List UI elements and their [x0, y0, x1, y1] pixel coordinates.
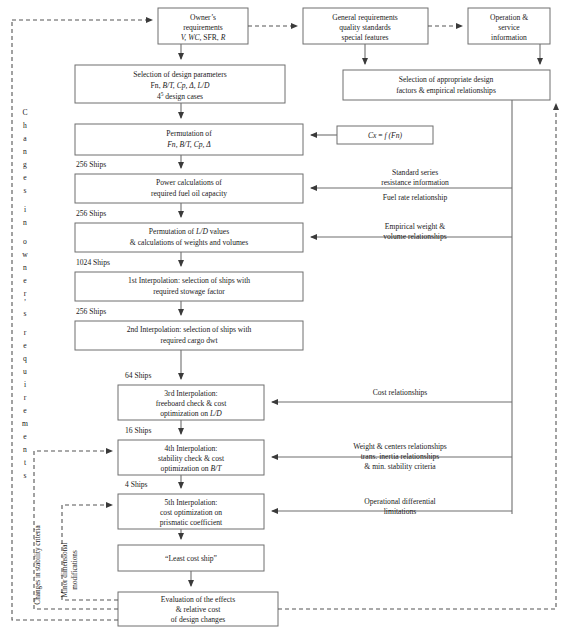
general-requirements-line3: special features: [341, 33, 388, 42]
interpolation-4-line3: optimization on B/T: [161, 464, 223, 473]
dashed-feedback-left-outer: [12, 20, 118, 620]
operation-service-line2: service: [498, 23, 520, 32]
svg-text:g: g: [23, 160, 27, 169]
interpolation-5-line1: 5th Interpolation:: [165, 498, 218, 507]
owner-req-sym1: V, WC,: [181, 33, 202, 42]
ship-count-1: 256 Ships: [76, 209, 106, 218]
ship-count-2: 1024 Ships: [76, 258, 110, 267]
general-requirements-line1: General requirements: [332, 13, 398, 22]
owner-requirements-line1: Owner’s: [190, 13, 216, 22]
i3-b: L/D: [209, 409, 222, 418]
svg-text:e: e: [23, 406, 27, 415]
evaluation-line3: of design changes: [171, 615, 225, 624]
selection-design-parameters-line1: Selection of design parameters: [133, 70, 226, 79]
standard-series-line2: resistance information: [381, 178, 449, 187]
svg-text:h: h: [23, 121, 27, 130]
svg-text:s: s: [24, 309, 27, 318]
interpolation-1-line1: 1st Interpolation: selection of ships wi…: [128, 276, 250, 285]
ship-count-6: 4 Ships: [125, 480, 148, 489]
standard-series-line3: Fuel rate relationship: [383, 193, 448, 202]
ship-count-5: 16 Ships: [125, 426, 151, 435]
vertical-label-minor-dimensional-line1: Minor dimensional: [61, 543, 69, 598]
permld-c: values: [208, 227, 229, 236]
permutation-1-line1: Permutation of: [166, 129, 212, 138]
svg-text:q: q: [23, 354, 27, 363]
owner-requirements-line2: requirements: [183, 23, 223, 32]
operation-service-line3: information: [491, 33, 527, 42]
operational-differential-line1: Operational differential: [364, 497, 435, 506]
interpolation-3-line1: 3rd Interpolation:: [164, 389, 217, 398]
owner-req-sym2: SFR,: [201, 33, 220, 42]
cx-equals: =: [376, 131, 384, 140]
evaluation-line2: & relative cost: [176, 605, 222, 614]
vertical-label-minor-dimensional-line2: modifications: [71, 550, 79, 590]
power-calculations-line2: required fuel oil capacity: [151, 189, 227, 198]
selection-appropriate-factors-line2: factors & empirical relationships: [396, 86, 496, 95]
interpolation-5-line3: prismatic coefficient: [160, 518, 223, 527]
i3-a: optimization on: [160, 409, 210, 418]
general-requirements-line2: quality standards: [339, 23, 391, 32]
svg-text:n: n: [23, 218, 27, 227]
permld-a: Permutation of: [149, 227, 196, 236]
svg-text:r: r: [24, 289, 27, 298]
svg-text:n: n: [23, 263, 27, 272]
interpolation-1-line2: required stowage factor: [153, 287, 225, 296]
permutation-ld-line1: Permutation of L/D values: [149, 227, 229, 236]
interpolation-2-line2: required cargo dwt: [160, 336, 218, 345]
svg-text:n: n: [23, 445, 27, 454]
empirical-weight-line2: volume relationships: [383, 232, 447, 241]
interpolation-4-line2: stability check & cost: [158, 454, 225, 463]
owner-req-sym3: R: [220, 33, 226, 42]
svg-text:i: i: [24, 380, 26, 389]
svg-text:w: w: [22, 250, 28, 259]
operational-differential-line2: limitations: [384, 507, 417, 516]
vertical-label-changes-stability-criteria: Changes in stability criteria: [34, 525, 42, 605]
svg-text:u: u: [23, 367, 27, 376]
interpolation-5-line2: cost optimization on: [160, 508, 222, 517]
svg-text:r: r: [24, 393, 27, 402]
i4-a: optimization on: [161, 464, 211, 473]
sdp-sym-fn: Fn,: [151, 81, 163, 90]
sdp-sym-rest: B/T, Cp, Δ, L/D: [162, 81, 209, 90]
least-cost-ship-label: “Least cost ship”: [165, 554, 217, 563]
vertical-label-changes-owner-requirements: C h a n g e s i n o w n e r ’ s r e q u …: [22, 108, 28, 480]
interpolation-3-line2: freeboard check & cost: [156, 399, 228, 408]
svg-text:s: s: [24, 186, 27, 195]
cx-function: f (Fn): [385, 131, 403, 140]
svg-text:a: a: [23, 134, 27, 143]
svg-text:r: r: [24, 328, 27, 337]
permld-b: L/D: [195, 227, 208, 236]
ship-count-3: 256 Ships: [76, 307, 106, 316]
interpolation-3-line3: optimization on L/D: [160, 409, 222, 418]
empirical-weight-line1: Empirical weight &: [385, 222, 445, 231]
svg-text:m: m: [22, 419, 28, 428]
cx-fn-formula: Cx = f (Fn): [368, 131, 403, 140]
power-calculations-line1: Power calculations of: [156, 178, 222, 187]
svg-text:i: i: [24, 205, 26, 214]
svg-text:e: e: [23, 341, 27, 350]
evaluation-line1: Evaluation of the effects: [161, 595, 235, 604]
permutation-ld-line2: & calculations of weights and volumes: [130, 238, 248, 247]
svg-text:s: s: [24, 471, 27, 480]
weight-centers-line2: trans. inertia relationships: [361, 452, 440, 461]
flowchart-svg: Owner’s requirements V, WC, SFR, R Gener…: [0, 0, 568, 640]
interpolation-2-line1: 2nd Interpolation: selection of ships wi…: [127, 325, 252, 334]
ship-count-4: 64 Ships: [125, 371, 151, 380]
standard-series-line1: Standard series: [392, 168, 438, 177]
svg-text:e: e: [23, 173, 27, 182]
flowchart-canvas: Owner’s requirements V, WC, SFR, R Gener…: [0, 0, 568, 640]
svg-text:’: ’: [24, 298, 27, 307]
sdp-tail: design cases: [163, 92, 203, 101]
svg-text:n: n: [23, 147, 27, 156]
operation-service-line1: Operation &: [490, 13, 528, 22]
weight-centers-line3: & min. stability criteria: [364, 462, 436, 471]
svg-text:C: C: [22, 108, 27, 117]
cost-relationships-label: Cost relationships: [373, 388, 428, 397]
svg-text:o: o: [23, 237, 27, 246]
i4-b: B/T: [210, 464, 222, 473]
ship-count-0: 256 Ships: [76, 160, 106, 169]
selection-design-parameters-line3: 45 design cases: [157, 91, 203, 101]
selection-design-parameters-line2: Fn, B/T, Cp, Δ, L/D: [151, 81, 210, 90]
svg-text:e: e: [23, 276, 27, 285]
selection-appropriate-factors-line1: Selection of appropriate design: [399, 75, 494, 84]
